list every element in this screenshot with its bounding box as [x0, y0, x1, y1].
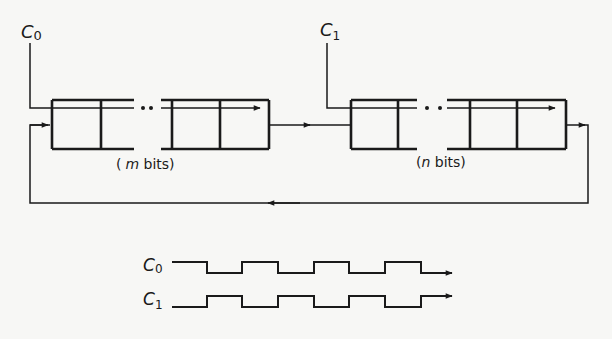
timing-c0-label: C0 — [143, 255, 163, 276]
c0-label: C0 — [21, 21, 42, 43]
c0-clock-line — [30, 43, 260, 108]
register-n-caption: (n bits) — [416, 154, 466, 170]
timing-c0-waveform — [172, 262, 452, 273]
register-m-caption: (m bits) — [116, 156, 175, 172]
timing-c1-waveform — [172, 296, 452, 307]
c1-clock-line — [327, 43, 555, 108]
shift-register-diagram: C0 C1 (m bits) (n bits) C0 C1 — [0, 0, 612, 339]
timing-c1-label: C1 — [143, 289, 163, 312]
register-n-ellipsis — [425, 106, 442, 110]
register-m-ellipsis — [141, 106, 153, 110]
c1-label: C1 — [320, 19, 340, 43]
feedback-link-n-to-m — [30, 125, 588, 203]
